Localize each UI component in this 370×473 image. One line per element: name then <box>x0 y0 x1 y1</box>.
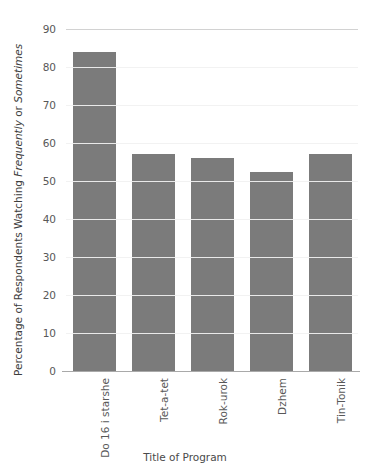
bar-chart-figure: 9080706050403020100 Do 16 i starsheTet-a… <box>0 0 370 473</box>
y-tick-label-30: 30 <box>43 252 56 262</box>
y-tick-label-20: 20 <box>43 290 56 300</box>
y-tick-label-40: 40 <box>43 214 56 224</box>
y-tick-label-60: 60 <box>43 138 56 148</box>
x-tick-label-dzhem: Dzhem <box>277 378 288 415</box>
y-tick-label-90: 90 <box>43 24 56 34</box>
y-axis-title: Percentage of Respondents Watching Frequ… <box>12 56 24 376</box>
y-axis-tick-labels: 9080706050403020100 <box>26 29 60 371</box>
x-axis-title: Title of Program <box>0 451 370 463</box>
x-tick-label-tin-tonik: Tin-Tonik <box>336 378 347 423</box>
y-tick-label-70: 70 <box>43 100 56 110</box>
y-tick-label-0: 0 <box>49 366 56 376</box>
x-tick-label-do-16-i-starshe: Do 16 i starshe <box>100 378 111 458</box>
y-axis-title-part: Percentage of Respondents Watching <box>12 177 24 376</box>
x-tick-label-rok-urok: Rok-urok <box>218 378 229 424</box>
y-tick-label-10: 10 <box>43 328 56 338</box>
y-tick-label-80: 80 <box>43 62 56 72</box>
x-tick-label-tet-a-tet: Tet-a-tet <box>159 378 170 422</box>
y-tick-label-50: 50 <box>43 176 56 186</box>
y-axis-title-part: or <box>12 103 24 120</box>
y-axis-title-part: Frequently <box>12 120 24 177</box>
y-axis-title-part: Sometimes <box>12 44 24 103</box>
x-axis-tick-labels: Do 16 i starsheTet-a-tetRok-urokDzhemTin… <box>66 0 358 473</box>
